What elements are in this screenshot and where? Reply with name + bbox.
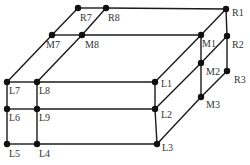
node-l2 xyxy=(152,106,158,112)
node-label-l8: L8 xyxy=(39,85,50,96)
node-r7 xyxy=(75,5,81,11)
node-l1 xyxy=(152,79,158,85)
node-label-l4: L4 xyxy=(39,148,50,159)
edge-layer xyxy=(7,8,227,144)
edge-r8-r1 xyxy=(106,8,226,9)
node-layer xyxy=(4,5,230,147)
node-label-l6: L6 xyxy=(9,112,20,123)
node-label-r3: R3 xyxy=(234,74,246,85)
node-label-r7: R7 xyxy=(80,12,92,23)
box-node-diagram: R7R8R1M7M8M1R2M2R3M3L7L8L1L6L9L2L5L4L3 xyxy=(0,0,250,165)
node-label-m1: M1 xyxy=(202,38,216,49)
node-label-l5: L5 xyxy=(9,148,20,159)
edge-m7-r7 xyxy=(52,8,78,35)
node-label-r8: R8 xyxy=(108,12,120,23)
node-label-m3: M3 xyxy=(206,99,220,110)
edge-l3-m3 xyxy=(157,97,201,144)
edge-l2-l3 xyxy=(155,109,157,144)
edge-l1-m1 xyxy=(155,35,201,82)
node-label-l7: L7 xyxy=(9,85,20,96)
node-label-l3: L3 xyxy=(162,142,173,153)
edge-m1-r1 xyxy=(201,9,226,35)
edge-r1-r2 xyxy=(226,9,227,36)
node-r8 xyxy=(103,5,109,11)
node-label-l9: L9 xyxy=(39,112,50,123)
node-label-m2: M2 xyxy=(206,66,220,77)
node-m2 xyxy=(198,60,204,66)
node-r1 xyxy=(223,6,229,12)
node-l3 xyxy=(154,141,160,147)
node-label-m7: M7 xyxy=(46,39,60,50)
node-label-l1: L1 xyxy=(161,78,172,89)
node-l5 xyxy=(4,141,10,147)
node-m7 xyxy=(49,32,55,38)
node-label-r1: R1 xyxy=(232,7,244,18)
node-label-l2: L2 xyxy=(161,109,172,120)
node-label-m8: M8 xyxy=(85,39,99,50)
node-l4 xyxy=(34,141,40,147)
label-layer: R7R8R1M7M8M1R2M2R3M3L7L8L1L6L9L2L5L4L3 xyxy=(9,7,246,159)
node-label-r2: R2 xyxy=(232,39,244,50)
node-m3 xyxy=(198,94,204,100)
node-r2 xyxy=(224,33,230,39)
node-m8 xyxy=(79,32,85,38)
node-r3 xyxy=(224,68,230,74)
